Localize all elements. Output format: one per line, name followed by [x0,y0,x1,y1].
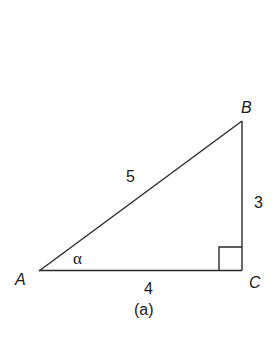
side-ab [39,121,242,271]
side-length-hypotenuse: 5 [126,168,135,185]
triangle [39,121,242,271]
vertex-label-c: C [249,274,261,291]
figure-caption: (a) [134,301,154,318]
right-triangle-diagram: B A C 5 3 4 α (a) [0,0,280,353]
vertex-label-b: B [241,99,252,116]
side-length-vertical: 3 [254,194,263,211]
angle-alpha-label: α [73,249,82,268]
vertex-label-a: A [14,271,26,288]
right-angle-marker [219,247,242,271]
side-length-base: 4 [144,280,153,297]
